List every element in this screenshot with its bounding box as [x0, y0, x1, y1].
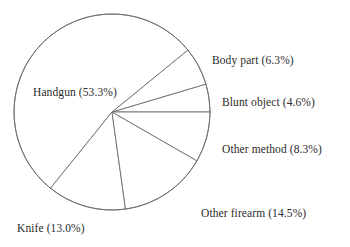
- pie-chart: Handgun (53.3%) Body part (6.3%) Blunt o…: [0, 0, 350, 247]
- pie-label-other-method: Other method (8.3%): [222, 143, 322, 156]
- pie-label-knife: Knife (13.0%): [17, 222, 85, 235]
- pie-label-blunt-object: Blunt object (4.6%): [222, 96, 315, 109]
- pie-label-handgun: Handgun (53.3%): [33, 86, 117, 99]
- pie-label-body-part: Body part (6.3%): [212, 54, 294, 67]
- pie-label-other-firearm: Other firearm (14.5%): [201, 207, 306, 220]
- pie-slice-group: [14, 14, 210, 210]
